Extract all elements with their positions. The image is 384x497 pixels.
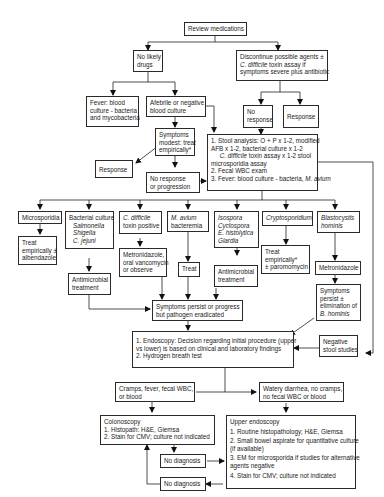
response-left-box: Response — [95, 160, 133, 178]
no-diagnosis-2-box: No diagnosis — [160, 477, 206, 491]
node-label-italic: Isospora — [218, 214, 255, 222]
node-label: agents negative — [230, 462, 352, 470]
node-label: Afebrile or negative — [150, 99, 202, 107]
response-top-box: Response — [283, 105, 319, 128]
node-label: 2. Hydrogen breath test — [136, 352, 290, 360]
node-label: or blood — [119, 393, 191, 401]
colonoscopy-box: Colonoscopy 1. Histopath: H&E, Giemsa 2.… — [100, 415, 215, 445]
node-label: Antimicrobial — [72, 276, 107, 284]
node-label: drugs — [137, 61, 159, 69]
node-label: Treat — [182, 265, 196, 273]
node-label: Microsporidia — [22, 214, 58, 222]
node-label: 1. Routine histopathology; H&E, Giemsa — [230, 428, 352, 436]
node-label: Response — [287, 113, 315, 121]
node-label: blood culture — [150, 107, 202, 115]
node-label-italic: C. difficile — [123, 214, 158, 222]
metronidazole-box: Metronidazole — [315, 261, 361, 275]
no-response-progression-box: No response or progression — [146, 172, 200, 193]
node-label: 3. EM for microsporida if studies for al… — [230, 454, 352, 462]
node-label: Response — [99, 166, 129, 174]
step-item-italic: M. avium — [305, 175, 331, 182]
node-label: culture - bacteria — [90, 107, 135, 115]
node-label: empirically ± — [22, 247, 53, 255]
step-item: toxin assay x 1-2 stool — [247, 152, 311, 159]
node-label: No diagnosis — [164, 480, 202, 488]
node-label-italic: B. hominis — [320, 310, 357, 318]
node-label: toxin assay if — [267, 61, 305, 68]
node-label: 2. Small bowel aspirate for quantitative… — [230, 437, 352, 445]
node-label: bacteremia — [171, 222, 205, 230]
step-item: 3. Fever: blood culture - bacteria, — [211, 175, 305, 182]
step-item: 1. Stool analysis: O + P x 1-2, modified — [211, 137, 314, 145]
node-label: No likely — [137, 53, 159, 61]
node-label: (if available) — [230, 445, 352, 453]
node-label: No response — [150, 175, 196, 183]
node-label: and mycobacteria — [90, 114, 135, 122]
node-label: persist ± — [320, 295, 357, 303]
node-label: or observe — [123, 266, 163, 274]
node-label-italic: C. difficile — [240, 61, 267, 68]
symptoms-modest-box: Symptoms modest: treat empirically* — [155, 128, 195, 156]
node-label: 2. Stain for CMV; culture not indicated — [104, 433, 211, 441]
node-label: Symptoms persist or progress — [156, 303, 239, 311]
node-label-italic: hominis — [321, 222, 356, 230]
node-label: but pathogen eradicated — [156, 311, 239, 319]
node-label: no fecal WBC or blood — [263, 393, 340, 401]
node-label: Bacterial culture — [69, 214, 110, 222]
node-label: 1. Histopath: H&E, Giemsa — [104, 426, 211, 434]
step-item-italic: C. difficile — [220, 152, 247, 159]
discontinue-agents-box: Discontinue possible agents ± C. diffici… — [236, 50, 328, 81]
node-label: toxin positive — [123, 222, 158, 230]
node-label-italic: C. jejuni — [69, 237, 110, 245]
microsporidia-box: Microsporidia — [18, 211, 62, 224]
upper-endoscopy-box: Upper endoscopy 1. Routine histopatholog… — [226, 415, 356, 489]
node-label: Symptoms — [320, 287, 357, 295]
node-label-italic: M. avium — [171, 214, 205, 222]
step-item: AFB x 1-2, bacterial culture x 1-2 — [211, 145, 314, 153]
node-label: Discontinue possible agents ± — [240, 53, 324, 61]
negative-stool-studies-box: Negative stool studies — [319, 335, 358, 357]
treat-box: Treat — [178, 262, 200, 277]
bacterial-culture-box: Bacterial culture Salmonella Shigella C.… — [65, 211, 114, 249]
treat-albendazole-box: Treat empirically ± albendazole — [18, 236, 57, 265]
node-label: No — [247, 108, 269, 116]
cramps-fever-box: Cramps, fever, fecal WBC, or blood — [115, 382, 195, 402]
isospora-box: Isospora Cyclospora E. histolytica Giard… — [214, 211, 259, 248]
symptoms-persist-box: Symptoms persist or progress but pathoge… — [152, 300, 243, 321]
node-label: empirically* — [159, 146, 191, 154]
node-label: Cramps, fever, fecal WBC, — [119, 385, 191, 393]
node-label: Antimicrobial — [218, 268, 254, 276]
node-label: 4. Stain for CMV; culture not indicated — [230, 472, 352, 480]
no-response-top-box: No response — [243, 105, 273, 128]
node-label: Metronidazole, — [123, 251, 163, 259]
antimicrobial-treatment-2-box: Antimicrobial treatment — [214, 265, 258, 287]
no-likely-drugs-box: No likely drugs — [133, 50, 163, 72]
stool-analysis-box: 1. Stool analysis: O + P x 1-2, modified… — [207, 134, 318, 191]
node-label-italic: Salmonella — [69, 222, 110, 230]
node-label: stool studies — [323, 346, 354, 354]
node-label: elimination of — [320, 302, 357, 310]
node-label: oral vancomycin — [123, 259, 163, 267]
node-label: Fever: blood — [90, 99, 135, 107]
node-label: Colonoscopy — [104, 418, 211, 426]
node-label: or progression — [150, 183, 196, 191]
node-label: Treat — [265, 248, 306, 256]
node-label: Watery diarrhea, no cramps, — [263, 385, 340, 393]
step-item: microsporidia assay — [211, 160, 314, 168]
symptoms-persist-bhominis-box: Symptoms persist ± elimination of B. hom… — [316, 284, 361, 321]
afebrile-box: Afebrile or negative blood culture — [146, 96, 206, 117]
node-label: 1. Endoscopy: Decision regarding initial… — [136, 337, 290, 345]
fever-blood-culture-box: Fever: blood culture - bacteria and myco… — [86, 96, 139, 127]
cryptosporidium-box: Cryptosporidium — [262, 211, 313, 226]
endoscopy-box: 1. Endoscopy: Decision regarding initial… — [132, 331, 294, 368]
node-label: treatment — [218, 276, 254, 284]
treat-paromomycin-box: Treat empirically* ± paromomycin — [261, 245, 310, 274]
node-label: response — [247, 116, 269, 124]
node-label-italic: Giardia — [218, 237, 255, 245]
blastocystis-box: Blastocystis hominis — [317, 211, 360, 233]
node-label-italic: Shigella — [69, 229, 110, 237]
cdiff-toxin-positive-box: C. difficile toxin positive — [119, 211, 162, 234]
metronidazole-vancomycin-box: Metronidazole, oral vancomycin or observ… — [119, 248, 167, 277]
node-label: Symptoms — [159, 131, 191, 139]
node-label-italic: Cryptosporidium — [266, 214, 309, 222]
